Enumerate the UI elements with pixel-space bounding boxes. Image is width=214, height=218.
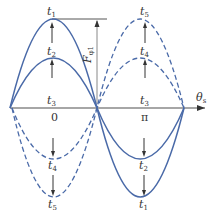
- label-t5-top-right: t5: [140, 6, 149, 19]
- label-t3-left: t3: [47, 95, 56, 108]
- label-t1-bottom-right: t1: [139, 199, 148, 212]
- label-t1-top-left: t1: [47, 6, 56, 19]
- label-origin: 0: [51, 112, 58, 123]
- arrow-up-icon: [143, 22, 147, 28]
- label-t2-bottom-right: t2: [139, 160, 148, 173]
- label-x-axis-theta-s: θs: [196, 92, 206, 105]
- label-t4-bottom-left: t4: [48, 160, 57, 173]
- label-t3-right: t3: [140, 95, 149, 108]
- arrow-up-icon: [50, 59, 54, 65]
- arrow-up-icon: [143, 59, 147, 65]
- arrow-down-icon: [142, 151, 146, 157]
- label-amplitude-f-phi1: Fφ1: [82, 46, 95, 63]
- x-axis-arrow-icon: [197, 105, 205, 111]
- label-t5-bottom-left: t5: [48, 199, 57, 212]
- arrow-down-icon: [51, 190, 55, 196]
- amplitude-arrow-icon: [95, 20, 100, 27]
- arrow-up-icon: [50, 22, 54, 28]
- label-t4-top-right: t4: [140, 46, 149, 59]
- mmf-waveform-diagram: [0, 0, 214, 218]
- arrow-down-icon: [51, 151, 55, 157]
- label-pi: π: [141, 112, 148, 123]
- label-t2-top-left: t2: [47, 46, 56, 59]
